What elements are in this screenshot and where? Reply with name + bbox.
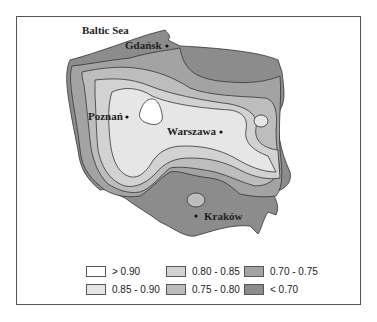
region-east-island (254, 115, 268, 127)
legend-swatch (244, 284, 264, 295)
city-label-warszawa: Warszawa (167, 125, 216, 137)
city-label-krakow: Kraków (204, 210, 243, 222)
legend: > 0.90 0.85 - 0.90 0.80 - 0.85 0.75 - 0.… (84, 264, 324, 300)
legend-item: 0.80 - 0.85 (166, 266, 240, 277)
legend-item: 0.75 - 0.80 (166, 284, 240, 295)
legend-item: 0.85 - 0.90 (86, 284, 160, 295)
legend-label: < 0.70 (270, 284, 298, 295)
legend-item: < 0.70 (244, 284, 298, 295)
legend-label: 0.70 - 0.75 (270, 266, 318, 277)
city-label-poznan: Poznań (88, 110, 123, 122)
legend-label: 0.85 - 0.90 (112, 284, 160, 295)
legend-swatch (86, 266, 106, 277)
legend-swatch (166, 266, 186, 277)
legend-swatch (86, 284, 106, 295)
city-dot-krakow (194, 214, 197, 217)
legend-item: > 0.90 (86, 266, 140, 277)
legend-label: > 0.90 (112, 266, 140, 277)
legend-swatch (166, 284, 186, 295)
legend-label: 0.80 - 0.85 (192, 266, 240, 277)
legend-swatch (244, 266, 264, 277)
city-dot-poznan (125, 115, 128, 118)
city-label-gdansk: Gdańsk (125, 39, 162, 51)
legend-label: 0.75 - 0.80 (192, 284, 240, 295)
city-dot-gdansk (165, 44, 168, 47)
sea-label: Baltic Sea (82, 24, 129, 36)
region-south-island (187, 193, 205, 207)
city-dot-warszawa (219, 130, 222, 133)
legend-item: 0.70 - 0.75 (244, 266, 318, 277)
